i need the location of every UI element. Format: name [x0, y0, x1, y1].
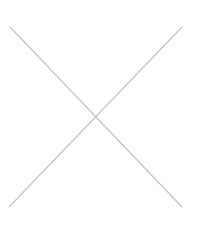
cross-icon: [0, 0, 209, 245]
image-placeholder: [0, 0, 209, 245]
